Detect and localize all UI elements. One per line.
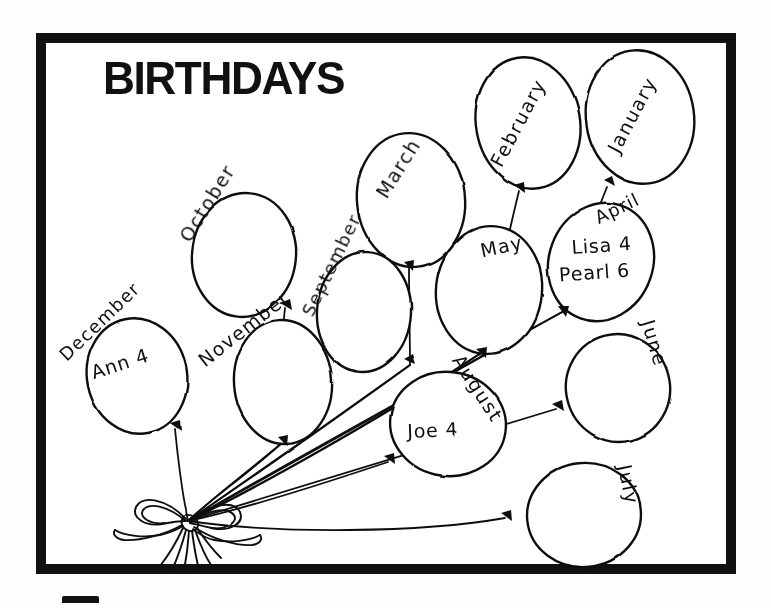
- poster-frame: [36, 33, 736, 574]
- bottom-edge-tab: [62, 596, 99, 603]
- page-title: BIRTHDAYS: [103, 54, 344, 101]
- poster-page: January February March April Lisa 4 Pear…: [0, 0, 771, 608]
